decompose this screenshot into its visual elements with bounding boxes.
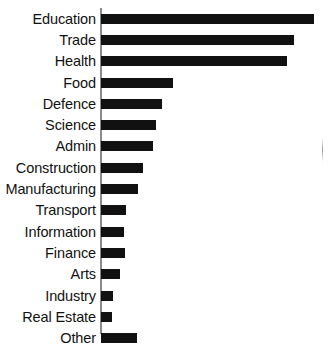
- bar-category-label: Admin: [55, 139, 96, 154]
- bar: [101, 227, 124, 237]
- bar-row: Finance: [0, 242, 329, 263]
- bar: [101, 141, 153, 151]
- bar: [101, 56, 287, 66]
- bar-row: Arts: [0, 264, 329, 285]
- bar-category-label: Information: [25, 224, 96, 239]
- bar-row: Defence: [0, 93, 329, 114]
- bar-category-label: Arts: [71, 267, 96, 282]
- bar-row: Health: [0, 51, 329, 72]
- bar-category-label: Food: [63, 75, 96, 90]
- bar-category-label: Transport: [35, 203, 96, 218]
- bar-category-label: Science: [45, 118, 96, 133]
- bar: [101, 78, 173, 88]
- bar: [101, 184, 138, 194]
- bar-row: Other: [0, 328, 329, 347]
- bar-category-label: Other: [60, 331, 96, 346]
- bar-category-label: Manufacturing: [5, 182, 96, 197]
- bar-row: Trade: [0, 29, 329, 50]
- bar-row: Food: [0, 72, 329, 93]
- bar-category-label: Construction: [16, 160, 96, 175]
- bar: [101, 205, 126, 215]
- bar: [101, 14, 314, 24]
- bar: [101, 120, 156, 130]
- bar-row: Real Estate: [0, 306, 329, 327]
- bar: [101, 99, 162, 109]
- bar-category-label: Education: [32, 11, 96, 26]
- bar-row: Manufacturing: [0, 178, 329, 199]
- bar-row: Admin: [0, 136, 329, 157]
- bar-category-label: Finance: [45, 246, 96, 261]
- bar-row: Transport: [0, 200, 329, 221]
- bar: [101, 35, 294, 45]
- bar-category-label: Industry: [45, 288, 96, 303]
- bar-row: Science: [0, 115, 329, 136]
- bar: [101, 291, 113, 301]
- plot-area: EducationTradeHealthFoodDefenceScienceAd…: [0, 0, 329, 347]
- bar-row: Industry: [0, 285, 329, 306]
- bar-row: Construction: [0, 157, 329, 178]
- bar-category-label: Real Estate: [22, 310, 96, 325]
- bar-row: Information: [0, 221, 329, 242]
- bar: [101, 312, 112, 322]
- bar: [101, 333, 137, 343]
- bar-category-label: Defence: [43, 97, 96, 112]
- bar: [101, 163, 143, 173]
- bar: [101, 248, 125, 258]
- bar-category-label: Trade: [59, 33, 96, 48]
- bar-row: Education: [0, 8, 329, 29]
- bar-chart: EducationTradeHealthFoodDefenceScienceAd…: [0, 0, 329, 347]
- bar: [101, 269, 120, 279]
- bar-category-label: Health: [55, 54, 96, 69]
